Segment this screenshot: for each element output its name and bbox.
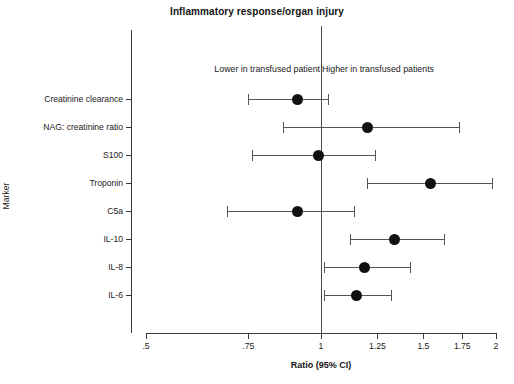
forest-row (0, 183, 514, 184)
x-axis-tick-label: 2 (494, 341, 499, 351)
estimate-point (389, 234, 400, 245)
confidence-interval-cap (283, 122, 284, 133)
confidence-interval-cap (248, 94, 249, 105)
confidence-interval-cap (354, 206, 355, 217)
x-axis-tick-label: 1.5 (417, 341, 429, 351)
x-axis-tick (377, 333, 378, 339)
confidence-interval-cap (410, 262, 411, 273)
x-axis-tick (321, 333, 322, 339)
confidence-interval-cap (252, 150, 253, 161)
confidence-interval-line (227, 211, 354, 212)
estimate-point (351, 290, 362, 301)
x-axis-tick (423, 333, 424, 339)
confidence-interval-cap (324, 290, 325, 301)
x-axis-tick (496, 333, 497, 339)
estimate-point (292, 94, 303, 105)
confidence-interval-cap (367, 178, 368, 189)
forest-row (0, 127, 514, 128)
confidence-interval-cap (328, 94, 329, 105)
x-axis-title: Ratio (95% CI) (146, 360, 496, 370)
forest-row (0, 155, 514, 156)
y-axis-tick-labels: Creatinine clearanceNAG: creatinine rati… (0, 0, 123, 384)
estimate-point (359, 262, 370, 273)
x-axis-tick-label: 1 (319, 341, 324, 351)
forest-row (0, 267, 514, 268)
confidence-interval-cap (459, 122, 460, 133)
x-axis-tick (248, 333, 249, 339)
confidence-interval-cap (324, 262, 325, 273)
confidence-interval-cap (444, 234, 445, 245)
forest-row (0, 295, 514, 296)
x-axis-tick-label: .75 (242, 341, 254, 351)
confidence-interval-line (248, 99, 328, 100)
confidence-interval-cap (227, 206, 228, 217)
x-axis-tick-label: 1.75 (454, 341, 471, 351)
confidence-interval-cap (375, 150, 376, 161)
forest-plot: Inflammatory response/organ injury Creat… (0, 0, 514, 384)
forest-row (0, 211, 514, 212)
estimate-point (425, 178, 436, 189)
annotation-lower: Lower in transfused patient (0, 64, 320, 74)
annotation-higher: Higher in transfused patients (322, 64, 434, 74)
estimate-point (313, 150, 324, 161)
forest-row (0, 239, 514, 240)
x-axis-tick-label: .5 (142, 341, 149, 351)
estimate-point (362, 122, 373, 133)
confidence-interval-cap (492, 178, 493, 189)
x-axis-tick (146, 333, 147, 339)
forest-row (0, 99, 514, 100)
y-axis-line (131, 30, 132, 333)
y-axis-title: Marker (1, 183, 11, 210)
confidence-interval-cap (391, 290, 392, 301)
confidence-interval-cap (350, 234, 351, 245)
x-axis-tick (462, 333, 463, 339)
estimate-point (292, 206, 303, 217)
x-axis-tick-label: 1.25 (369, 341, 386, 351)
